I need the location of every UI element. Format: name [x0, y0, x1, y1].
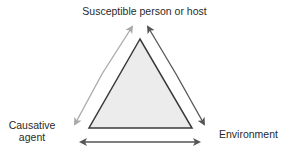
environment-label: Environment [219, 128, 278, 140]
central-triangle [89, 39, 192, 128]
host-label: Susceptible person or host [0, 5, 289, 17]
agent-label: Causative agent [4, 119, 60, 143]
